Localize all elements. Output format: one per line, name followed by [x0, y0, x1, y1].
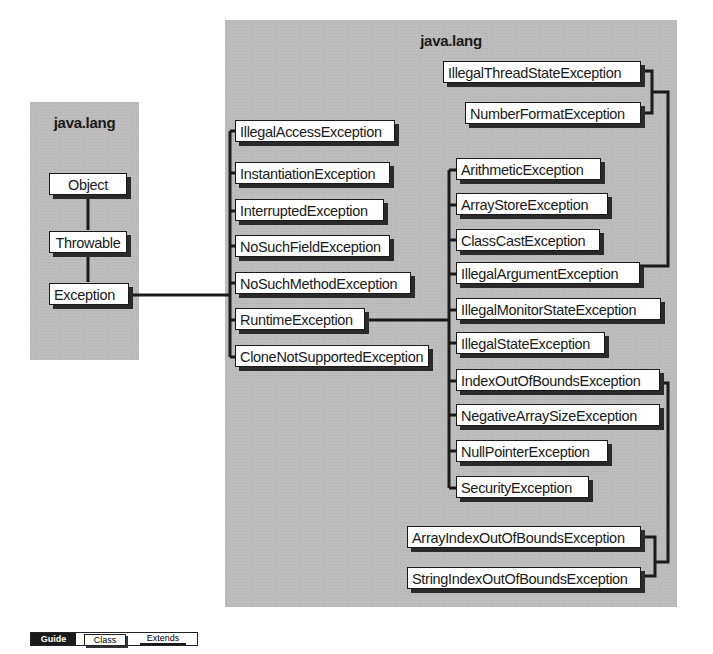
class-box-class-cast-exception[interactable]: ClassCastException: [456, 229, 600, 251]
legend-extends-sample: Extends: [140, 633, 186, 645]
class-box-runtime-exception[interactable]: RuntimeException: [235, 308, 365, 330]
class-box-array-store-exception[interactable]: ArrayStoreException: [456, 193, 608, 215]
class-box-no-such-field-exception[interactable]: NoSuchFieldException: [235, 235, 390, 257]
class-box-null-pointer-exception[interactable]: NullPointerException: [456, 440, 608, 462]
class-box-illegal-state-exception[interactable]: IllegalStateException: [456, 332, 605, 354]
class-box-arithmetic-exception[interactable]: ArithmeticException: [456, 158, 601, 180]
class-box-string-index-out-of-bounds-exception[interactable]: StringIndexOutOfBoundsException: [407, 567, 641, 589]
class-box-array-index-out-of-bounds-exception[interactable]: ArrayIndexOutOfBoundsException: [407, 526, 641, 548]
left-panel-title: java.lang: [30, 114, 139, 131]
class-box-security-exception[interactable]: SecurityException: [456, 476, 589, 498]
class-box-illegal-monitor-state-exception[interactable]: IllegalMonitorStateException: [456, 298, 661, 320]
class-box-negative-array-size-exception[interactable]: NegativeArraySizeException: [456, 404, 660, 426]
right-panel-title: java.lang: [225, 32, 677, 49]
class-box-instantiation-exception[interactable]: InstantiationException: [235, 162, 390, 184]
legend-class-sample: Class: [84, 634, 126, 646]
class-box-interrupted-exception[interactable]: InterruptedException: [235, 199, 384, 221]
class-box-illegal-thread-state-exception[interactable]: IllegalThreadStateException: [443, 61, 641, 83]
class-box-clone-not-supported-exception[interactable]: CloneNotSupportedException: [235, 345, 429, 367]
class-box-no-such-method-exception[interactable]: NoSuchMethodException: [235, 272, 411, 294]
class-box-illegal-argument-exception[interactable]: IllegalArgumentException: [456, 262, 640, 284]
class-box-throwable[interactable]: Throwable: [49, 231, 127, 253]
class-box-number-format-exception[interactable]: NumberFormatException: [465, 102, 641, 124]
class-box-object[interactable]: Object: [49, 173, 127, 195]
legend-guide-label: Guide: [31, 633, 76, 645]
class-box-exception[interactable]: Exception: [49, 283, 129, 305]
class-box-illegal-access-exception[interactable]: IllegalAccessException: [235, 120, 395, 142]
legend: Guide Class Extends: [30, 632, 198, 646]
class-box-index-out-of-bounds-exception[interactable]: IndexOutOfBoundsException: [456, 369, 660, 391]
